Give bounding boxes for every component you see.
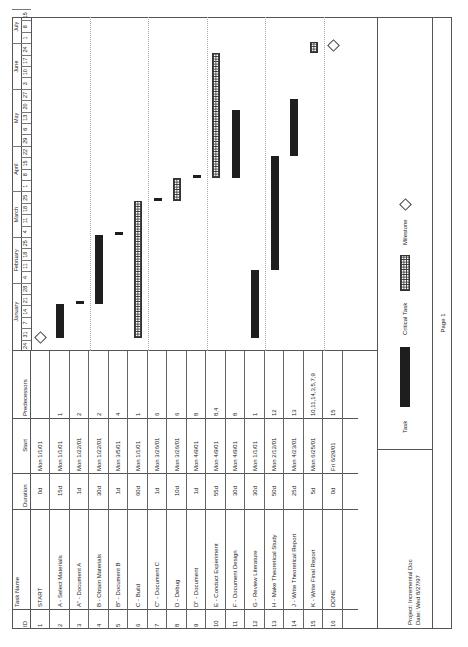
- cell-task-name: C" - Document C: [148, 509, 167, 609]
- week-label: 24: [21, 43, 31, 54]
- cell-start: Mon 1/1/01: [246, 418, 265, 473]
- table-row: 9D" - Document1dMon 4/9/018: [187, 351, 206, 629]
- cell-id: 12: [246, 609, 265, 629]
- legend-critical-swatch: [400, 255, 410, 291]
- page-footer: Page 1: [432, 17, 453, 629]
- cell-duration: 30d: [226, 473, 245, 509]
- cell-task-name: E - Conduct Experiment: [207, 509, 226, 609]
- week-label: 22: [21, 146, 31, 157]
- table-row: 14J - Write Theoretical Report25dMon 4/2…: [285, 351, 304, 629]
- cell-duration: 10d: [168, 473, 187, 509]
- cell-task-name: B" - Document B: [109, 509, 128, 609]
- week-label: 29: [21, 134, 31, 145]
- row-gridline: [324, 17, 325, 351]
- cell-task-name: A" - Document A: [70, 509, 89, 609]
- cell-duration: 30d: [90, 473, 109, 509]
- week-label: 4: [21, 226, 31, 237]
- task-bar: [56, 304, 64, 338]
- cell-duration: 1d: [70, 473, 89, 509]
- cell-id: 9: [187, 609, 206, 629]
- cell-start: Mon 1/1/01: [129, 418, 148, 473]
- cell-task-name: D" - Document: [187, 509, 206, 609]
- cell-predecessors: 4: [109, 351, 128, 418]
- critical-task-bar: [310, 42, 318, 53]
- legend-milestone-label: Milestone: [402, 219, 408, 245]
- milestone-diamond-icon: [34, 331, 47, 344]
- table-row: 15K - Write Final Report5dMon 6/25/0110,…: [304, 351, 323, 629]
- cell-predecessors: 8: [226, 351, 245, 418]
- cell-id: 15: [304, 609, 323, 629]
- task-bar: [290, 99, 298, 156]
- week-label: 18: [21, 203, 31, 214]
- week-label: 1: [21, 32, 31, 43]
- week-label: 13: [21, 112, 31, 123]
- week-label: 21: [21, 294, 31, 305]
- week-label: 25: [21, 237, 31, 248]
- table-row: 16DONE0dFri 6/29/0115: [324, 351, 343, 629]
- table-row: 13H - Make Theoretical Study50dMon 2/12/…: [265, 351, 284, 629]
- week-label: 18: [21, 248, 31, 259]
- cell-duration: 1d: [187, 473, 206, 509]
- cell-predecessors: 13: [285, 351, 304, 418]
- cell-task-name: C - Build: [129, 509, 148, 609]
- page-number: Page 1: [440, 313, 446, 332]
- cell-task-name: A - Select Materials: [51, 509, 70, 609]
- cell-start: Mon 1/22/01: [70, 418, 89, 473]
- cell-id: 8: [168, 609, 187, 629]
- header-predecessors: Predecessors: [12, 351, 31, 418]
- cell-start: Mon 3/26/01: [148, 418, 167, 473]
- cell-start: Mon 3/26/01: [168, 418, 187, 473]
- cell-id: 11: [226, 609, 245, 629]
- cell-predecessors: 1: [246, 351, 265, 418]
- cell-start: Mon 4/9/01: [226, 418, 245, 473]
- cell-start: Mon 1/1/01: [31, 418, 50, 473]
- cell-id: 10: [207, 609, 226, 629]
- week-label: 25: [21, 191, 31, 202]
- cell-id: 6: [129, 609, 148, 629]
- month-label: June: [12, 43, 21, 89]
- cell-predecessors: 10,11,14,3,5,7,9: [304, 351, 323, 418]
- table-row: 4B - Obtain Materials30dMon 1/22/012: [90, 351, 109, 629]
- task-bar: [95, 235, 103, 303]
- cell-duration: 60d: [129, 473, 148, 509]
- cell-duration: 1d: [109, 473, 128, 509]
- cell-start: Mon 4/9/01: [207, 418, 226, 473]
- cell-task-name: J - Write Theoretical Report: [285, 509, 304, 609]
- cell-id: 3: [70, 609, 89, 629]
- table-row: 6C - Build60dMon 1/1/011: [129, 351, 148, 629]
- month-label: February: [12, 237, 21, 283]
- table-row: 2A - Select Materials15dMon 1/1/011: [51, 351, 70, 629]
- project-name: Project: Incremental Doc: [406, 454, 414, 625]
- cell-predecessors: 2: [90, 351, 109, 418]
- table-row: 1START0dMon 1/1/01: [31, 351, 50, 629]
- gantt-print-page: ID Task Name Duration Start Predecessors…: [0, 0, 468, 647]
- table-row: 7C" - Document C1dMon 3/26/016: [148, 351, 167, 629]
- week-label: 11: [21, 214, 31, 225]
- cell-id: 16: [324, 609, 343, 629]
- cell-duration: 50d: [265, 473, 284, 509]
- cell-start: Mon 1/22/01: [90, 418, 109, 473]
- cell-id: 5: [109, 609, 128, 629]
- week-label: 14: [21, 305, 31, 316]
- week-label: 15: [21, 157, 31, 168]
- week-label: 24: [21, 340, 31, 351]
- task-bar: [193, 175, 201, 178]
- cell-task-name: DONE: [324, 509, 343, 609]
- legend-task-swatch: [400, 347, 410, 407]
- month-label: May: [12, 89, 21, 146]
- critical-task-bar: [173, 178, 181, 201]
- cell-predecessors: 1: [129, 351, 148, 418]
- gantt-chart: JanuaryFebruaryMarchAprilMayJuneJuly 243…: [12, 17, 377, 351]
- cell-duration: 0d: [324, 473, 343, 509]
- table-row: 10E - Conduct Experiment55dMon 4/9/018,4: [207, 351, 226, 629]
- week-label: 10: [21, 66, 31, 77]
- cell-predecessors: 1: [51, 351, 70, 418]
- milestone-diamond-icon: [327, 40, 340, 53]
- week-label: 17: [21, 55, 31, 66]
- week-label: 7: [21, 317, 31, 328]
- table-row: 8D - Debug10dMon 3/26/016: [168, 351, 187, 629]
- task-bar: [115, 232, 123, 235]
- table-row: 11F - Document Design30dMon 4/9/018: [226, 351, 245, 629]
- week-label: 8: [21, 20, 31, 31]
- cell-task-name: G - Review Literature: [246, 509, 265, 609]
